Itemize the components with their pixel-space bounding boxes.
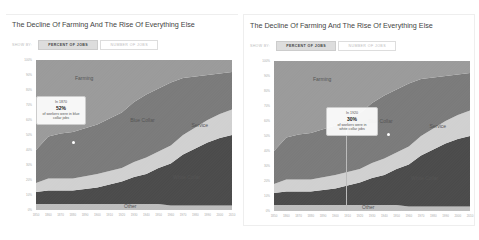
tab-number-of-jobs[interactable]: NUMBER OF JOBS (100, 40, 158, 50)
y-tick-label: 20% (18, 178, 32, 182)
tab-percent-of-jobs[interactable]: PERCENT OF JOBS (38, 40, 98, 50)
y-tick-label: 50% (256, 134, 270, 138)
stacked-area-chart[interactable]: 0%10%20%30%40%50%60%70%80%90%100%1850186… (6, 58, 238, 226)
y-tick-label: 100% (18, 58, 32, 62)
y-tick-label: 70% (256, 104, 270, 108)
stacked-area-chart[interactable]: 0%10%20%30%40%50%60%70%80%90%100%1850186… (244, 59, 476, 227)
chart-panel-left: The Decline Of Farming And The Rise Of E… (6, 14, 238, 226)
tooltip: In 187052%of workers were in bluecollar … (36, 96, 86, 125)
divider (6, 14, 238, 15)
y-tick-label: 10% (18, 193, 32, 197)
show-by-controls: SHOW BY: PERCENT OF JOBS NUMBER OF JOBS (250, 41, 396, 51)
y-tick-label: 80% (18, 88, 32, 92)
chart-title: The Decline Of Farming And The Rise Of E… (250, 21, 433, 30)
hover-dot (72, 141, 75, 144)
y-tick-label: 100% (256, 59, 270, 63)
y-tick-label: 0% (18, 208, 32, 212)
area-label-service: Service (429, 123, 446, 129)
hover-dot (387, 133, 390, 136)
y-tick-label: 60% (256, 119, 270, 123)
chart-plot (6, 58, 238, 226)
y-tick-label: 50% (18, 133, 32, 137)
show-by-controls: SHOW BY: PERCENT OF JOBS NUMBER OF JOBS (12, 40, 158, 50)
y-tick-label: 80% (256, 89, 270, 93)
tooltip-desc: white collar jobs (329, 127, 375, 132)
area-label-other: Other (362, 204, 375, 210)
area-label-white-collar: White Collar (173, 174, 200, 180)
area-label-blue-collar: Blue Collar (130, 117, 154, 123)
area-label-farming: Farming (75, 75, 93, 81)
area-label-service: Service (191, 122, 208, 128)
chart-panel-right: The Decline Of Farming And The Rise Of E… (243, 14, 475, 226)
y-tick-label: 30% (18, 163, 32, 167)
tab-number-of-jobs[interactable]: NUMBER OF JOBS (338, 41, 396, 51)
chart-plot (244, 59, 476, 227)
tab-percent-of-jobs[interactable]: PERCENT OF JOBS (276, 41, 336, 51)
y-tick-label: 0% (256, 209, 270, 213)
tooltip: In 192030%of workers were inwhite collar… (326, 107, 378, 136)
area-label-white-collar: White Collar (411, 175, 438, 181)
chart-title: The Decline Of Farming And The Rise Of E… (12, 20, 195, 29)
y-tick-label: 30% (256, 164, 270, 168)
y-tick-label: 60% (18, 118, 32, 122)
y-tick-label: 90% (256, 74, 270, 78)
x-tick-label: 2010 (463, 214, 477, 218)
tooltip-value: 30% (329, 116, 375, 123)
y-tick-label: 70% (18, 103, 32, 107)
y-tick-label: 40% (256, 149, 270, 153)
x-tick-label: 2010 (225, 213, 239, 217)
y-tick-label: 20% (256, 179, 270, 183)
show-by-label: SHOW BY: (12, 43, 32, 47)
area-label-other: Other (124, 203, 137, 209)
y-tick-label: 90% (18, 73, 32, 77)
area-label-farming: Farming (313, 76, 331, 82)
tooltip-desc: collar jobs (39, 116, 83, 121)
y-tick-label: 10% (256, 194, 270, 198)
y-tick-label: 40% (18, 148, 32, 152)
hover-line (346, 129, 347, 211)
show-by-label: SHOW BY: (250, 44, 270, 48)
tooltip-value: 52% (39, 105, 83, 112)
